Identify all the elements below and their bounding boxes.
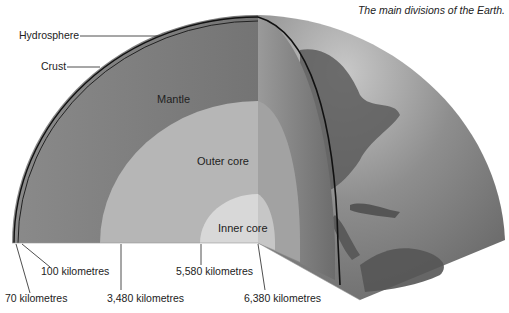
label-outer-core: Outer core <box>197 155 249 167</box>
label-mantle: Mantle <box>157 93 190 105</box>
label-inner-core: Inner core <box>218 222 268 234</box>
earth-diagram: The main divisions of the Earth. Hydrosp… <box>0 0 509 313</box>
label-depth-3480: 3,480 kilometres <box>107 292 184 304</box>
label-depth-100: 100 kilometres <box>41 265 109 277</box>
label-depth-70: 70 kilometres <box>5 292 67 304</box>
label-crust: Crust <box>41 60 66 72</box>
label-depth-6380: 6,380 kilometres <box>244 292 321 304</box>
label-depth-5580: 5,580 kilometres <box>176 265 253 277</box>
label-hydrosphere: Hydrosphere <box>19 29 79 41</box>
figure-caption: The main divisions of the Earth. <box>358 4 505 16</box>
